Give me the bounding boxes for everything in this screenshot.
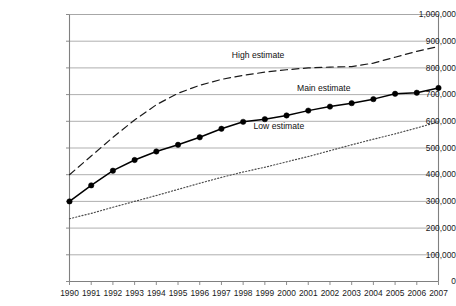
data-point-marker: [371, 96, 376, 101]
x-axis-tick-label: 2007: [422, 289, 456, 297]
series-annotation-label: High estimate: [232, 51, 285, 60]
series-line-main-estimate: [70, 88, 439, 201]
y-axis-tick-label: 500,000: [394, 144, 456, 152]
series-annotation-label: Main estimate: [297, 84, 351, 93]
data-point-marker: [349, 100, 354, 105]
chart-container: 1,000,000900,000800,000700,000600,000500…: [0, 0, 456, 306]
data-point-marker: [284, 113, 289, 118]
data-point-marker: [327, 104, 332, 109]
data-point-marker: [154, 149, 159, 154]
y-axis-tick-label: 100,000: [394, 251, 456, 259]
chart-plot-area: [0, 0, 456, 306]
series-lines: [70, 47, 439, 219]
y-axis-tick-label: 800,000: [394, 64, 456, 72]
data-point-marker: [197, 135, 202, 140]
series-line-low-estimate: [70, 122, 439, 219]
y-axis-tick-label: 900,000: [394, 37, 456, 45]
series-line-high-estimate: [70, 47, 439, 175]
data-point-marker: [306, 108, 311, 113]
data-point-marker: [175, 142, 180, 147]
y-axis-tick-label: 1,000,000: [394, 10, 456, 18]
y-axis-tick-label: 0: [394, 277, 456, 285]
y-axis-tick-label: 200,000: [394, 224, 456, 232]
data-point-marker: [219, 126, 224, 131]
series-annotation-label: Low estimate: [254, 122, 305, 131]
y-axis-tick-label: 300,000: [394, 197, 456, 205]
data-point-marker: [89, 183, 94, 188]
series-markers: [67, 85, 441, 204]
y-axis-tick-label: 700,000: [394, 90, 456, 98]
data-point-marker: [240, 119, 245, 124]
y-axis-tick-label: 600,000: [394, 117, 456, 125]
data-point-marker: [132, 157, 137, 162]
y-axis-tick-label: 400,000: [394, 170, 456, 178]
data-point-marker: [67, 199, 72, 204]
data-point-marker: [110, 168, 115, 173]
